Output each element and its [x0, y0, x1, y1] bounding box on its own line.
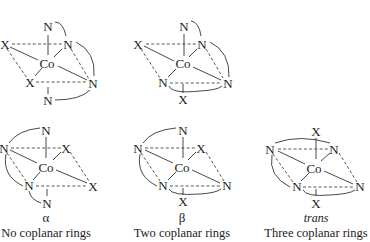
atom-bottom: X — [178, 194, 188, 209]
atom-top: N — [41, 123, 51, 138]
atom-center: Co — [306, 161, 321, 176]
atom-lower-left: N — [158, 75, 168, 90]
atom-left: X — [133, 37, 143, 52]
atom-upper-right: X — [196, 141, 206, 156]
atom-bottom: X — [311, 196, 321, 211]
atom-upper-right: N — [329, 142, 339, 157]
atom-right: N — [223, 76, 233, 91]
atom-lower-left: N — [24, 178, 34, 193]
atom-lower-left: X — [25, 75, 35, 90]
atom-upper-right: N — [63, 37, 73, 52]
isomer-label-trans: trans — [304, 211, 329, 225]
atom-upper-right: X — [61, 141, 71, 156]
isomer-caption-alpha: No coplanar rings — [1, 226, 91, 240]
atom-center: Co — [38, 160, 53, 175]
atom-top: N — [179, 19, 189, 34]
atom-bottom: N — [43, 93, 53, 108]
isomer-label-alpha: α — [43, 210, 50, 225]
isomer-caption-beta: Two coplanar rings — [134, 226, 230, 240]
atom-left: X — [0, 37, 10, 52]
atom-right: N — [88, 76, 98, 91]
atom-upper-right: N — [197, 37, 207, 52]
isomer-alpha: N N X Co N X N α No coplanar rings — [0, 123, 98, 240]
atom-bottom: X — [178, 92, 188, 107]
atom-right: N — [355, 179, 365, 194]
atom-left: N — [265, 142, 275, 157]
isomer-beta: N N X Co N N X β Two coplanar rings — [133, 123, 232, 240]
atom-top: N — [178, 123, 188, 138]
atom-left: N — [0, 141, 9, 156]
atom-right: X — [88, 179, 98, 194]
atom-center: Co — [174, 160, 189, 175]
atom-lower-left: N — [292, 179, 302, 194]
atom-top: X — [311, 124, 321, 139]
isomer-caption-trans: Three coplanar rings — [264, 226, 368, 240]
isomer-diagram: N X N Co X N N N X N Co N N X — [0, 0, 370, 242]
atom-left: N — [133, 141, 143, 156]
atom-lower-left: N — [158, 178, 168, 193]
isomer-trans: X N N Co N N X trans Three coplanar ring… — [264, 124, 368, 240]
atom-right: N — [222, 178, 232, 193]
isomer-top-left: N X N Co X N N — [0, 19, 98, 108]
atom-top: N — [43, 19, 53, 34]
atom-center: Co — [39, 56, 54, 71]
atom-bottom: N — [42, 196, 52, 211]
atom-center: Co — [175, 56, 190, 71]
isomer-top-middle: N X N Co N N X — [133, 19, 233, 107]
isomer-label-beta: β — [179, 210, 186, 225]
